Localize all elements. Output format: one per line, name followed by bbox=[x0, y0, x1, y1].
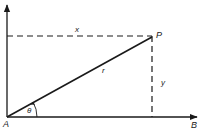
label-origin-a: A bbox=[2, 119, 9, 129]
label-r: r bbox=[102, 66, 105, 75]
label-theta: θ bbox=[27, 106, 32, 115]
label-y: y bbox=[160, 78, 166, 87]
label-point-p: P bbox=[156, 30, 162, 40]
polar-coordinates-diagram: x P r y θ A B bbox=[0, 0, 199, 129]
label-axis-end-b: B bbox=[191, 120, 197, 129]
radius-vector-r bbox=[7, 37, 152, 117]
label-x: x bbox=[74, 25, 80, 34]
